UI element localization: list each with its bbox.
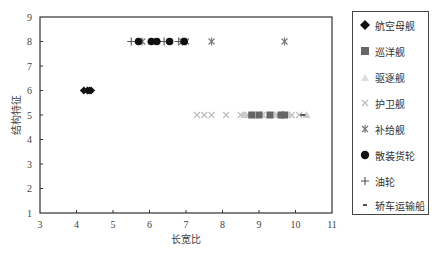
- data-point: [135, 38, 143, 46]
- y-axis-title: 结构特征: [10, 95, 22, 135]
- legend-item-cruiser: 巡洋舰: [359, 44, 405, 58]
- data-point: [223, 112, 229, 118]
- legend-label: 轿车运输船: [375, 198, 425, 213]
- legend-item-supply-ship: 补给舰: [359, 122, 405, 136]
- triangle-icon: [359, 71, 371, 83]
- legend: 航空母舰 巡洋舰 驱逐舰 护卫舰 补给舰 散装货轮 油轮 轿车运输船: [352, 11, 429, 215]
- legend-label: 驱逐舰: [375, 70, 405, 85]
- y-tick-label: 4: [27, 134, 32, 145]
- dash-icon: [359, 199, 371, 211]
- legend-label: 航空母舰: [375, 18, 415, 33]
- x-tick-label: 5: [111, 219, 116, 230]
- x-axis-title: 长宽比: [171, 233, 201, 245]
- x-tick-label: 11: [327, 219, 337, 230]
- plus-icon: [359, 175, 371, 187]
- x-tick-label: 7: [184, 219, 189, 230]
- data-point: [282, 38, 288, 46]
- circle-icon: [359, 149, 371, 161]
- legend-label: 油轮: [375, 174, 395, 189]
- data-point: [256, 112, 263, 119]
- data-points: [80, 38, 311, 119]
- data-point: [248, 112, 255, 119]
- y-tick-label: 1: [27, 208, 32, 219]
- y-tick-label: 8: [27, 36, 32, 47]
- y-tick-label: 7: [27, 61, 32, 72]
- data-point: [180, 38, 188, 46]
- x-tick-label: 10: [291, 219, 301, 230]
- x-tick-label: 8: [220, 219, 225, 230]
- diamond-icon: [359, 19, 371, 31]
- legend-item-aircraft-carrier: 航空母舰: [359, 18, 415, 32]
- x-icon: [359, 97, 371, 109]
- y-tick-label: 6: [27, 85, 32, 96]
- legend-item-destroyer: 驱逐舰: [359, 70, 405, 84]
- y-tick-label: 9: [27, 12, 32, 23]
- data-point: [153, 38, 161, 46]
- y-tick-label: 2: [27, 183, 32, 194]
- legend-label: 散装货轮: [375, 148, 415, 163]
- data-point: [194, 112, 200, 118]
- legend-item-frigate: 护卫舰: [359, 96, 405, 110]
- data-point: [209, 38, 215, 46]
- x-tick-label: 4: [74, 219, 79, 230]
- data-point: [266, 112, 273, 119]
- legend-label: 护卫舰: [375, 96, 405, 111]
- legend-label: 巡洋舰: [375, 44, 405, 59]
- data-point: [201, 112, 207, 118]
- data-point: [166, 38, 174, 46]
- y-tick-label: 5: [27, 110, 32, 121]
- legend-item-oil-tanker: 油轮: [359, 174, 395, 188]
- x-tick-label: 9: [257, 219, 262, 230]
- data-point: [127, 38, 135, 46]
- legend-label: 补给舰: [375, 122, 405, 137]
- data-point: [209, 112, 215, 118]
- y-tick-label: 3: [27, 159, 32, 170]
- data-point: [281, 112, 288, 119]
- asterisk-icon: [359, 123, 371, 135]
- x-tick-label: 3: [38, 219, 43, 230]
- square-icon: [359, 45, 371, 57]
- x-tick-label: 6: [147, 219, 152, 230]
- legend-item-car-carrier: 轿车运输船: [359, 198, 425, 212]
- legend-item-bulk-carrier: 散装货轮: [359, 148, 415, 162]
